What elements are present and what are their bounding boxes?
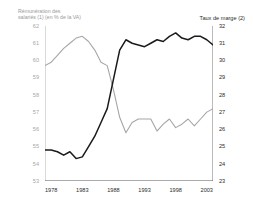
plot-svg — [45, 26, 213, 181]
y-tick-label-right: 28 — [219, 92, 235, 98]
y-tick-label-left: 57 — [23, 109, 39, 115]
chart-container: Rémunération des salariés (1) (en % de l… — [0, 0, 253, 212]
x-tick-label: 1993 — [132, 187, 158, 193]
y-tick-label-left: 62 — [23, 23, 39, 29]
y-tick-label-left: 56 — [23, 126, 39, 132]
axes-group — [45, 26, 213, 181]
x-tick-label: 2003 — [194, 187, 220, 193]
right-axis-caption: Taux de marge (2) — [200, 15, 245, 21]
y-tick-label-left: 61 — [23, 40, 39, 46]
y-tick-label-right: 31 — [219, 40, 235, 46]
x-tick-label: 1983 — [69, 187, 95, 193]
y-tick-label-right: 29 — [219, 74, 235, 80]
plot-area — [45, 26, 213, 181]
y-tick-label-right: 25 — [219, 143, 235, 149]
y-tick-label-left: 58 — [23, 92, 39, 98]
y-tick-label-left: 59 — [23, 74, 39, 80]
x-tick-label: 1998 — [163, 187, 189, 193]
x-tick-label: 1988 — [100, 187, 126, 193]
y-tick-label-right: 32 — [219, 23, 235, 29]
series-line-remuneration — [45, 36, 213, 132]
y-tick-label-left: 53 — [23, 178, 39, 184]
y-tick-label-left: 60 — [23, 57, 39, 63]
left-axis-caption: Rémunération des salariés (1) (en % de l… — [18, 9, 81, 21]
y-tick-label-right: 26 — [219, 126, 235, 132]
y-tick-label-right: 27 — [219, 109, 235, 115]
y-tick-label-right: 23 — [219, 178, 235, 184]
series-line-taux-de-marge — [45, 33, 213, 159]
y-tick-label-right: 24 — [219, 161, 235, 167]
x-tick-label: 1978 — [38, 187, 64, 193]
y-tick-label-left: 55 — [23, 143, 39, 149]
y-tick-label-left: 54 — [23, 161, 39, 167]
y-tick-label-right: 30 — [219, 57, 235, 63]
series-group — [45, 33, 213, 159]
